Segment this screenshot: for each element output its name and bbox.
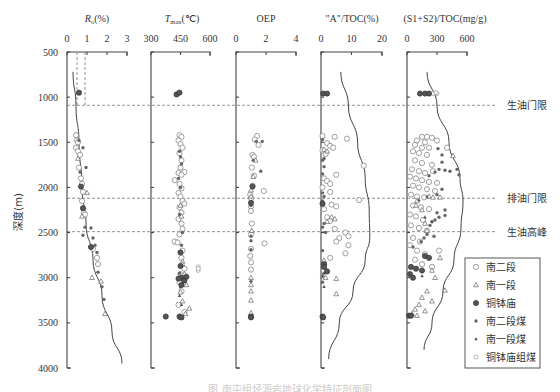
data-point-n1	[249, 228, 254, 232]
x-tick-label: 600	[203, 33, 218, 44]
data-point-n2c	[78, 170, 81, 173]
data-point-n2c	[81, 234, 84, 237]
data-point-n2	[424, 187, 429, 192]
data-point-n2	[182, 201, 187, 206]
data-point-n2	[172, 178, 177, 183]
data-point-n1c	[423, 215, 426, 218]
data-point-tb	[321, 315, 326, 320]
data-point-n2	[346, 234, 351, 239]
data-point-n2c	[179, 186, 182, 189]
data-point-n2	[328, 189, 333, 194]
data-point-n1c	[178, 294, 181, 297]
data-point-n1	[415, 313, 420, 317]
data-point-tb	[325, 91, 330, 96]
data-point-tb	[250, 184, 255, 189]
data-point-n2c	[436, 147, 439, 150]
x-tick-label: 10	[347, 33, 357, 44]
legend-label: 铜钵庙组煤	[486, 351, 536, 363]
data-point-n2c	[321, 249, 324, 252]
panel-title: Tmax(℃)	[165, 13, 199, 25]
x-tick-label: 0	[234, 33, 239, 44]
data-point-n1	[420, 295, 425, 299]
data-point-tb	[408, 264, 413, 269]
data-point-n2c	[457, 173, 460, 176]
data-point-n2	[429, 135, 434, 140]
panels: Ro(%)0123Tmax(℃)300450600OEP024"A"/TOC(%…	[65, 13, 487, 368]
data-point-tb	[179, 282, 184, 287]
data-point-n1	[423, 309, 428, 313]
x-tick-label: 3	[125, 33, 130, 44]
data-point-n2c	[437, 216, 440, 219]
data-point-n1	[431, 195, 436, 199]
zone-lines: 生油门限排油门限生油高峰	[67, 99, 547, 237]
data-point-n2c	[91, 236, 94, 239]
data-point-n2c	[249, 234, 252, 237]
scatter-points	[163, 90, 200, 320]
data-point-n2	[416, 151, 421, 156]
data-point-n2c	[448, 169, 451, 172]
data-point-n2c	[432, 234, 435, 237]
panel-a_toc: "A"/TOC(%)01020	[319, 13, 388, 368]
data-point-tb	[410, 275, 415, 280]
panel-title: (S1+S2)/TOC(mg/g)	[403, 13, 486, 25]
data-point-n2	[410, 183, 415, 188]
data-point-n2c	[96, 271, 99, 274]
data-point-n2	[426, 145, 431, 150]
data-point-n2c	[427, 174, 430, 177]
legend-label: 铜钵庙	[486, 297, 516, 309]
data-point-n2	[409, 167, 414, 172]
data-point-n2	[357, 197, 362, 202]
data-point-n2	[410, 149, 415, 154]
panel-ro: Ro(%)0123	[65, 13, 130, 368]
data-point-tb	[408, 313, 413, 318]
data-point-n2	[331, 145, 336, 150]
data-point-tbc	[196, 267, 200, 271]
data-point-n1	[187, 306, 192, 310]
data-point-n2c	[324, 231, 327, 234]
data-point-n2c	[435, 193, 438, 196]
data-point-n2	[248, 267, 253, 272]
data-point-n2c	[180, 244, 183, 247]
data-point-n2	[413, 214, 418, 219]
x-tick-label: 4	[294, 33, 299, 44]
panel-tmax: Tmax(℃)300450600	[144, 13, 218, 368]
data-point-n2	[413, 176, 418, 181]
data-point-n2	[179, 172, 184, 177]
x-tick-label: 1	[85, 33, 90, 44]
data-point-n2c	[179, 155, 182, 158]
data-point-n2	[419, 178, 424, 183]
data-point-n2	[422, 170, 427, 175]
data-point-n2	[95, 262, 100, 267]
data-point-n2	[444, 145, 449, 150]
data-point-n2	[419, 134, 424, 139]
data-point-n1	[249, 298, 254, 302]
data-point-n2	[180, 145, 185, 150]
data-point-n1	[180, 299, 185, 303]
data-point-tb	[248, 200, 253, 205]
data-point-n2	[432, 188, 437, 193]
depth-profile-chart: 5001000150020002500300035004000 生油门限排油门限…	[0, 0, 560, 392]
data-point-n1	[334, 276, 339, 280]
data-point-n2	[94, 255, 99, 260]
data-point-n2	[179, 221, 184, 226]
scatter-points	[320, 91, 366, 320]
data-point-n1	[417, 302, 422, 306]
data-point-n2c	[422, 236, 425, 239]
data-point-n2	[175, 240, 180, 245]
data-point-n2	[261, 188, 266, 193]
x-tick-label: 600	[460, 33, 475, 44]
y-tick-label: 1000	[38, 92, 58, 103]
data-point-n2	[426, 179, 431, 184]
y-tick-label: 3000	[38, 272, 58, 283]
figure-caption: 图 南屯组烃源岩地球化学特征剖面图	[140, 380, 440, 392]
data-point-n2	[343, 251, 348, 256]
data-point-n2	[332, 226, 337, 231]
data-point-tbc	[474, 355, 478, 359]
data-point-n2	[424, 134, 429, 139]
legend-label: 南二段	[486, 261, 516, 273]
data-point-n2c	[425, 233, 428, 236]
data-point-n2	[422, 140, 427, 145]
panel-axis	[321, 52, 382, 368]
data-point-n2	[419, 145, 424, 150]
panel-oep: OEP024	[234, 13, 299, 368]
